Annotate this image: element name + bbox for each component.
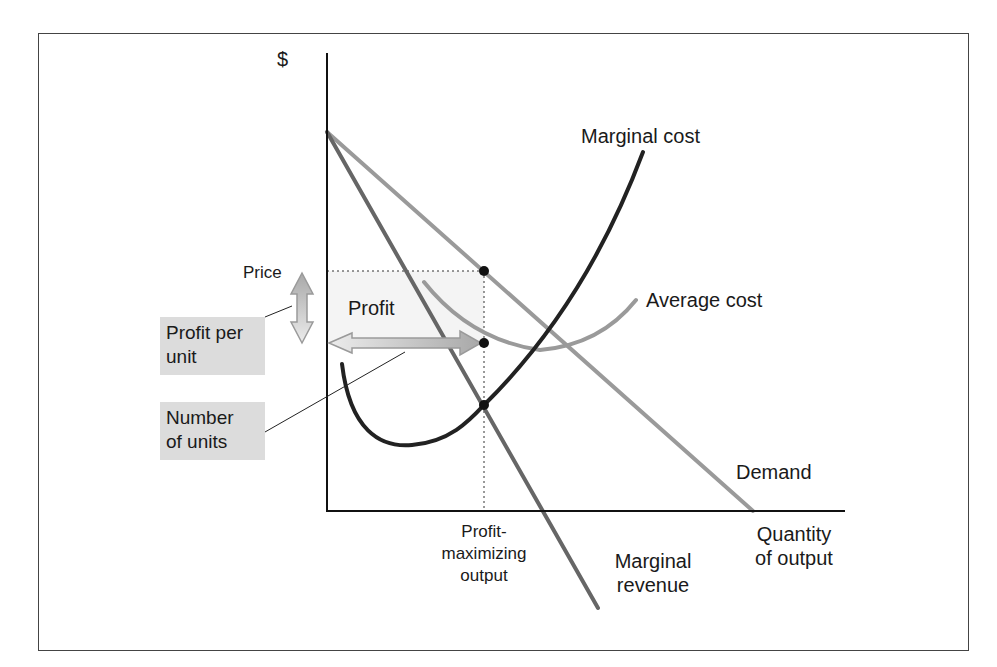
marginal-revenue-label-line2: revenue	[600, 573, 706, 597]
profit-per-unit-line1: Profit per	[166, 321, 259, 345]
marginal-revenue-label-line1: Marginal	[600, 549, 706, 573]
marginal-revenue-label: Marginal revenue	[600, 549, 706, 597]
average-cost-point	[479, 338, 489, 348]
demand-label: Demand	[736, 460, 812, 484]
number-of-units-leader	[265, 352, 405, 432]
profit-max-line1: Profit-	[420, 521, 548, 543]
profit-maximizing-output-label: Profit- maximizing output	[420, 521, 548, 587]
x-axis-label: Quantity of output	[740, 522, 848, 570]
profit-per-unit-arrow	[291, 273, 313, 343]
average-cost-label: Average cost	[646, 288, 762, 312]
number-of-units-box: Number of units	[160, 402, 265, 460]
y-axis-label: $	[277, 47, 288, 71]
marginal-cost-label: Marginal cost	[581, 124, 700, 148]
price-point	[479, 266, 489, 276]
profit-per-unit-box: Profit per unit	[160, 317, 265, 375]
x-axis-label-line1: Quantity	[740, 522, 848, 546]
profit-per-unit-leader	[265, 306, 292, 317]
number-of-units-line2: of units	[166, 430, 259, 454]
profit-label: Profit	[348, 296, 395, 320]
number-of-units-line1: Number	[166, 406, 259, 430]
profit-max-line2: maximizing	[420, 543, 548, 565]
price-label: Price	[243, 262, 282, 284]
profit-max-line3: output	[420, 565, 548, 587]
x-axis-label-line2: of output	[740, 546, 848, 570]
profit-per-unit-line2: unit	[166, 345, 259, 369]
mr-mc-intersection-point	[479, 400, 489, 410]
